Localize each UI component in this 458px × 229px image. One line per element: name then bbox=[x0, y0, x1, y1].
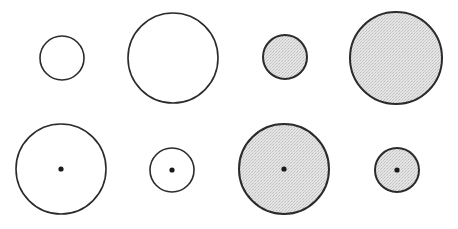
circle-shape bbox=[263, 35, 307, 79]
circle-shape bbox=[128, 13, 218, 103]
circles-layer bbox=[16, 12, 442, 214]
shaded-circle-with-dot bbox=[375, 148, 419, 192]
center-dot-icon bbox=[394, 167, 399, 172]
shaded-circle bbox=[263, 35, 307, 79]
shaded-circle-with-dot bbox=[239, 124, 329, 214]
open-circle bbox=[40, 36, 84, 80]
shaded-circle bbox=[350, 12, 442, 104]
center-dot-icon bbox=[169, 167, 174, 172]
open-circle-with-dot bbox=[16, 124, 106, 214]
center-dot-icon bbox=[58, 166, 63, 171]
open-circle-with-dot bbox=[150, 148, 194, 192]
circle-diagram bbox=[0, 0, 458, 229]
circle-shape bbox=[350, 12, 442, 104]
center-dot-icon bbox=[281, 166, 286, 171]
open-circle bbox=[128, 13, 218, 103]
circle-shape bbox=[40, 36, 84, 80]
